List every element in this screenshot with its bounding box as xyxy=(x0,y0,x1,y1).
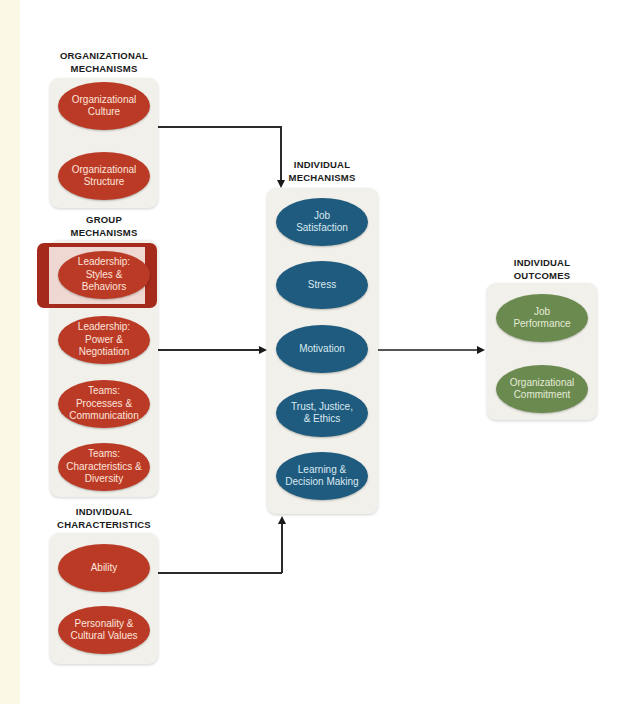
node-label: Personality & xyxy=(70,618,137,631)
connector-org-vertical xyxy=(280,126,282,181)
arrowhead-up-icon xyxy=(278,516,286,524)
node-label: Motivation xyxy=(299,343,345,356)
node-label: Stress xyxy=(308,279,336,292)
heading-line: INDIVIDUAL xyxy=(472,256,612,269)
node-label: Structure xyxy=(72,176,136,189)
connector-outcomes xyxy=(378,349,478,351)
node-job-performance[interactable]: JobPerformance xyxy=(496,294,588,342)
node-label: Trust, Justice, xyxy=(291,401,353,414)
individual-characteristics-heading: INDIVIDUAL CHARACTERISTICS xyxy=(34,505,174,531)
arrowhead-right-icon xyxy=(259,346,267,354)
node-organizational-structure[interactable]: OrganizationalStructure xyxy=(58,152,150,200)
node-label: Ability xyxy=(91,562,118,575)
arrowhead-right-icon xyxy=(477,346,485,354)
node-motivation[interactable]: Motivation xyxy=(276,325,368,373)
node-label: Teams: xyxy=(66,448,142,461)
node-label: Leadership: xyxy=(78,256,130,269)
heading-line: GROUP xyxy=(34,213,174,226)
node-label: Negotiation xyxy=(78,346,130,359)
left-margin-strip xyxy=(0,0,20,704)
node-ability[interactable]: Ability xyxy=(58,544,150,592)
connector-org-horizontal xyxy=(158,126,281,128)
node-learning-decision-making[interactable]: Learning &Decision Making xyxy=(276,452,368,500)
organizational-mechanisms-heading: ORGANIZATIONAL MECHANISMS xyxy=(34,49,174,75)
node-label: Diversity xyxy=(66,473,142,486)
node-label: Cultural Values xyxy=(70,630,137,643)
connector-group xyxy=(158,349,260,351)
node-label: Commitment xyxy=(510,389,574,402)
node-label: Organizational xyxy=(72,164,136,177)
individual-outcomes-heading: INDIVIDUAL OUTCOMES xyxy=(472,256,612,282)
heading-line: MECHANISMS xyxy=(34,226,174,239)
arrowhead-down-icon xyxy=(277,180,285,188)
connector-indchar-horizontal xyxy=(158,572,282,574)
node-leadership-styles-behaviors[interactable]: Leadership:Styles &Behaviors xyxy=(58,251,150,299)
node-trust-justice-ethics[interactable]: Trust, Justice,& Ethics xyxy=(276,389,368,437)
heading-line: MECHANISMS xyxy=(252,171,392,184)
node-label: Culture xyxy=(72,106,136,119)
node-label: Satisfaction xyxy=(296,222,348,235)
node-stress[interactable]: Stress xyxy=(276,261,368,309)
node-label: Power & xyxy=(78,334,130,347)
individual-mechanisms-heading: INDIVIDUAL MECHANISMS xyxy=(252,158,392,184)
node-label: Performance xyxy=(513,318,570,331)
heading-line: MECHANISMS xyxy=(34,62,174,75)
node-label: Leadership: xyxy=(78,321,130,334)
node-label: Characteristics & xyxy=(66,461,142,474)
heading-line: INDIVIDUAL xyxy=(34,505,174,518)
node-label: Behaviors xyxy=(78,281,130,294)
node-label: Organizational xyxy=(72,94,136,107)
node-label: & Ethics xyxy=(291,413,353,426)
node-organizational-commitment[interactable]: OrganizationalCommitment xyxy=(496,365,588,413)
node-label: Learning & xyxy=(285,464,358,477)
node-label: Job xyxy=(513,306,570,319)
heading-line: ORGANIZATIONAL xyxy=(34,49,174,62)
heading-line: OUTCOMES xyxy=(472,269,612,282)
node-organizational-culture[interactable]: OrganizationalCulture xyxy=(58,82,150,130)
node-label: Processes & xyxy=(69,398,138,411)
connector-indchar-vertical xyxy=(281,523,283,573)
node-label: Job xyxy=(296,210,348,223)
node-personality-cultural-values[interactable]: Personality &Cultural Values xyxy=(58,606,150,654)
node-label: Decision Making xyxy=(285,476,358,489)
heading-line: CHARACTERISTICS xyxy=(34,518,174,531)
node-label: Teams: xyxy=(69,385,138,398)
group-mechanisms-heading: GROUP MECHANISMS xyxy=(34,213,174,239)
node-leadership-power-negotiation[interactable]: Leadership:Power &Negotiation xyxy=(58,316,150,364)
node-teams-characteristics-diversity[interactable]: Teams:Characteristics &Diversity xyxy=(58,443,150,491)
node-label: Styles & xyxy=(78,269,130,282)
node-job-satisfaction[interactable]: JobSatisfaction xyxy=(276,198,368,246)
node-label: Organizational xyxy=(510,377,574,390)
node-teams-processes-communication[interactable]: Teams:Processes &Communication xyxy=(58,380,150,428)
node-label: Communication xyxy=(69,410,138,423)
heading-line: INDIVIDUAL xyxy=(252,158,392,171)
